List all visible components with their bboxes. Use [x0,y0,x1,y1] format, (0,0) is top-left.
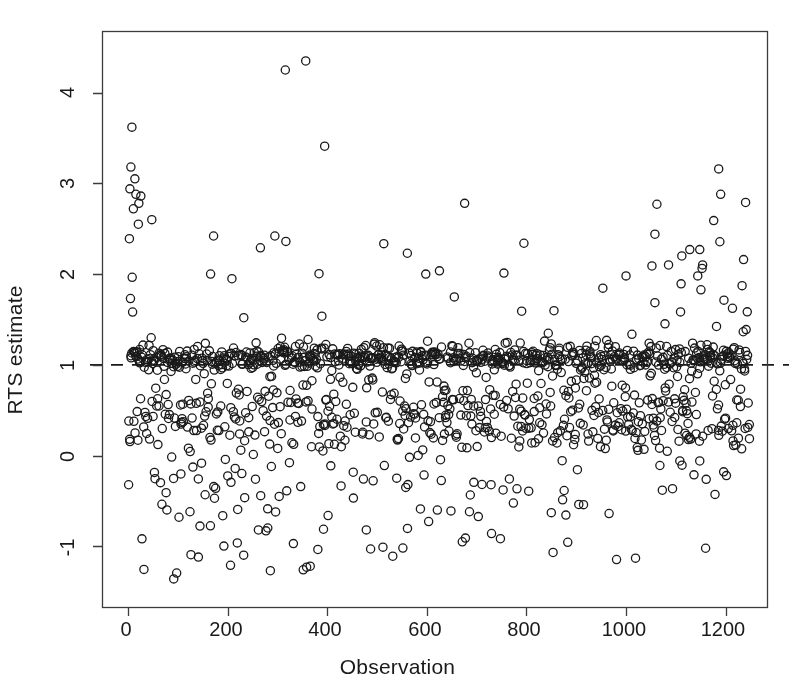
x-axis-title: Observation [0,655,795,679]
scatter-plot-canvas [0,0,795,700]
ytick-label-4: 4 [48,81,88,105]
ytick-label-neg1: -1 [48,536,88,560]
ytick-label-0: 0 [48,445,88,469]
xtick-label-200: 200 [186,618,266,641]
xtick-label-1200: 1200 [683,618,763,641]
ytick-label-2: 2 [48,263,88,287]
xtick-label-0: 0 [86,618,166,641]
xtick-label-400: 400 [285,618,365,641]
ytick-label-1: 1 [48,354,88,378]
xtick-label-1000: 1000 [584,618,664,641]
ytick-label-3: 3 [48,172,88,196]
y-axis-title: RTS estimate [0,0,30,700]
xtick-label-800: 800 [484,618,564,641]
xtick-label-600: 600 [385,618,465,641]
scatter-plot-figure: 4 3 2 1 0 -1 0 200 400 600 800 1000 1200… [0,0,795,700]
